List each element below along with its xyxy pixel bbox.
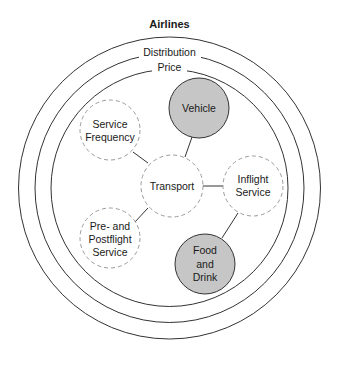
edge-transport-prepostflight (134, 208, 148, 223)
airlines-diagram: Airlines Distribution Price Vehicle Serv… (0, 0, 338, 365)
node-transport-label: Transport (150, 180, 195, 192)
ring-label-distribution: Distribution (143, 46, 196, 58)
node-food-and-drink-label-3: Drink (193, 271, 218, 283)
node-transport: Transport (141, 155, 203, 217)
node-pre-postflight-label-3: Service (92, 246, 127, 258)
node-pre-postflight-service: Pre- and Postflight Service (80, 208, 140, 268)
ring-label-price: Price (158, 61, 182, 73)
edge-transport-service-frequency (133, 152, 148, 163)
edge-transport-vehicle (185, 137, 192, 157)
node-inflight-service: Inflight Service (223, 156, 283, 216)
node-pre-postflight-label-2: Postflight (88, 233, 131, 245)
node-service-frequency-label-1: Service (92, 118, 127, 130)
node-inflight-service-label-1: Inflight (238, 173, 269, 185)
node-vehicle-label: Vehicle (182, 102, 216, 114)
node-food-and-drink-label-2: and (196, 258, 214, 270)
node-pre-postflight-label-1: Pre- and (90, 220, 130, 232)
node-service-frequency-circle (80, 100, 140, 160)
node-vehicle: Vehicle (169, 78, 229, 138)
node-food-and-drink: Food and Drink (175, 234, 235, 294)
node-service-frequency: Service Frequency (80, 100, 140, 160)
node-service-frequency-label-2: Frequency (85, 131, 135, 143)
node-inflight-service-label-2: Service (235, 186, 270, 198)
diagram-title: Airlines (149, 18, 189, 30)
node-food-and-drink-label-1: Food (193, 244, 217, 256)
edge-inflight-food (222, 213, 238, 238)
